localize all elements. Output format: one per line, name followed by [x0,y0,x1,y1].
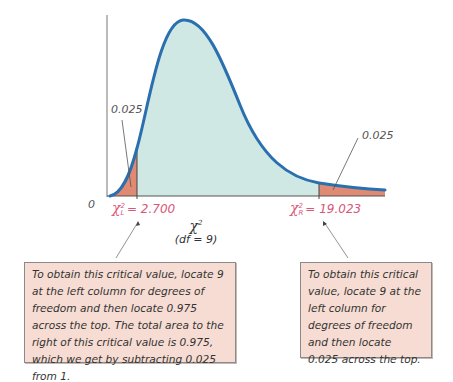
df-label: (df = 9) [160,233,232,246]
left-note-arrowhead [136,221,140,226]
x-axis-label: χ2 (df = 9) [160,216,232,246]
sub: R [298,209,303,217]
left-critical-label: χ2L= 2.700 [112,200,175,217]
sup: 2 [198,219,202,227]
left-critical-value: = 2.700 [127,202,175,216]
left-tail-area [110,148,137,196]
origin-label: 0 [88,198,95,211]
sub: L [120,209,124,217]
right-critical-value: = 19.023 [305,202,361,216]
chi-symbol: χ [290,200,298,216]
chi-symbol: χ [190,218,198,234]
right-area-pointer [333,138,358,190]
right-note: To obtain this critical value, locate 9 … [300,262,432,358]
right-note-pointer [324,222,348,258]
left-note-pointer [116,222,138,258]
right-critical-label: χ2R= 19.023 [290,200,361,217]
right-area-label: 0.025 [362,129,394,142]
left-note: To obtain this critical value, locate 9 … [24,262,236,363]
left-area-label: 0.025 [111,103,143,116]
chi-symbol: χ [112,200,120,216]
